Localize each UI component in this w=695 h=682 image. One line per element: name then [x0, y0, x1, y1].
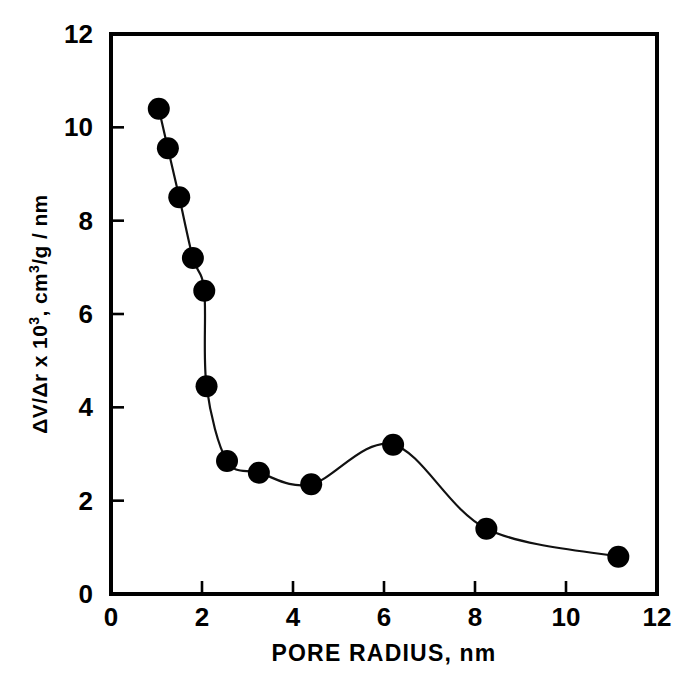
data-point-3 — [182, 247, 204, 269]
data-point-1 — [157, 137, 179, 159]
x-tick-label-0: 0 — [104, 602, 118, 632]
data-point-2 — [168, 186, 190, 208]
data-point-6 — [216, 450, 238, 472]
y-tick-label-0: 0 — [79, 579, 93, 609]
y-axis-tick-labels: 024681012 — [64, 19, 93, 609]
data-point-9 — [382, 434, 404, 456]
x-tick-label-6: 6 — [377, 602, 391, 632]
pore-radius-distribution-chart: 024681012 024681012 PORE RADIUS, nm ΔV/Δ… — [0, 0, 695, 682]
x-tick-label-8: 8 — [468, 602, 482, 632]
data-point-4 — [193, 280, 215, 302]
y-tick-label-4: 4 — [79, 392, 94, 422]
y-tick-label-10: 10 — [64, 112, 93, 142]
data-series-curve — [159, 109, 619, 557]
x-axis-title: PORE RADIUS, nm — [271, 640, 496, 666]
data-point-5 — [196, 375, 218, 397]
data-point-7 — [248, 462, 270, 484]
data-series-markers — [148, 98, 630, 568]
y-tick-label-8: 8 — [79, 206, 93, 236]
y-tick-label-6: 6 — [79, 299, 93, 329]
x-axis-tick-labels: 024681012 — [104, 602, 672, 632]
data-point-10 — [475, 518, 497, 540]
plot-frame — [111, 34, 657, 594]
chart-figure: 024681012 024681012 PORE RADIUS, nm ΔV/Δ… — [0, 0, 695, 682]
y-tick-label-2: 2 — [79, 486, 93, 516]
data-point-0 — [148, 98, 170, 120]
x-tick-label-10: 10 — [552, 602, 581, 632]
y-tick-label-12: 12 — [64, 19, 93, 49]
y-axis-title: ΔV/Δr x 103, cm3/g / nm — [26, 194, 51, 433]
x-tick-label-4: 4 — [286, 602, 301, 632]
x-tick-label-2: 2 — [195, 602, 209, 632]
data-point-11 — [607, 546, 629, 568]
data-point-8 — [300, 473, 322, 495]
x-tick-label-12: 12 — [643, 602, 672, 632]
